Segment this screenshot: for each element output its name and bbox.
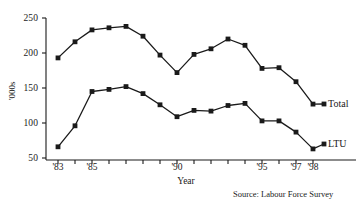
- data-point: [209, 46, 214, 51]
- data-point: [158, 102, 163, 107]
- ytick-label: 200: [12, 49, 38, 59]
- xtick-label: '98: [301, 163, 325, 173]
- data-point: [56, 56, 61, 61]
- ytick-label: 50: [12, 154, 38, 164]
- data-point: [107, 87, 112, 92]
- data-point: [90, 28, 95, 33]
- data-point: [73, 123, 78, 128]
- data-point: [226, 103, 231, 108]
- data-point: [260, 66, 265, 71]
- data-point: [158, 53, 163, 58]
- series-ltu: [56, 84, 327, 151]
- data-point: [243, 43, 248, 48]
- data-point: [192, 52, 197, 57]
- chart-canvas: [0, 0, 364, 204]
- data-point: [277, 65, 282, 70]
- chart-axes: [42, 18, 356, 164]
- y-axis-title: '000s: [8, 81, 17, 100]
- series-label-total: Total: [328, 99, 348, 109]
- series-label-ltu: LTU: [328, 139, 347, 149]
- chart-series-layer: [56, 24, 327, 151]
- data-point: [294, 130, 299, 135]
- xtick-label: '85: [80, 163, 104, 173]
- series-line: [58, 87, 313, 149]
- data-point: [175, 114, 180, 119]
- data-point: [141, 34, 146, 39]
- data-point: [294, 79, 299, 84]
- source-note: Source: Labour Force Survey: [233, 190, 333, 199]
- data-point: [192, 108, 197, 113]
- series-label-marker: [322, 102, 327, 107]
- ytick-label: 250: [12, 14, 38, 24]
- data-point: [260, 119, 265, 124]
- data-point: [209, 109, 214, 114]
- xtick-label: '95: [250, 163, 274, 173]
- data-point: [90, 89, 95, 94]
- data-point: [175, 70, 180, 75]
- data-point: [141, 91, 146, 96]
- xtick-label: '90: [165, 163, 189, 173]
- x-axis-title: Year: [156, 177, 216, 187]
- data-point: [124, 24, 129, 29]
- series-total: [56, 24, 327, 107]
- data-point: [73, 39, 78, 44]
- data-point: [243, 101, 248, 106]
- data-point: [226, 37, 231, 42]
- series-label-marker: [322, 142, 327, 147]
- data-point: [56, 144, 61, 149]
- ytick-label: 100: [12, 119, 38, 129]
- series-line: [58, 26, 313, 104]
- data-point: [124, 84, 129, 89]
- xtick-label: '83: [46, 163, 70, 173]
- data-point: [107, 25, 112, 30]
- data-point: [277, 119, 282, 124]
- line-chart: 250 200 150 100 50 '000s '83 '85 '90 '95…: [0, 0, 364, 204]
